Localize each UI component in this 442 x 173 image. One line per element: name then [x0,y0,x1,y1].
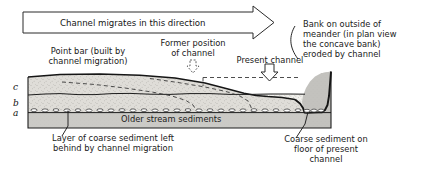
point-bar-label-line1: Point bar (built by [32,46,144,56]
former-channel-down-arrow [187,60,199,73]
coarse-layer-label-line2: behind by channel migration [38,143,188,153]
geologic-cross-section-figure: Channel migrates in this direction Point… [0,0,442,173]
point-bar-label-line2: channel migration) [32,56,144,66]
former-position-label-line2: of channel [146,48,240,58]
migration-direction-label: Channel migrates in this direction [60,18,206,28]
present-channel-down-arrow [261,64,278,81]
coarse-floor-label-line3: channel [272,154,380,164]
coarse-layer-label-line1: Layer of coarse sediment left [38,133,188,143]
bank-outside-label-line1: Bank on outside of [303,19,381,29]
channel-floor-gravel [304,109,324,112]
former-position-label-line1: Former position [146,38,240,48]
coarse-floor-label-line2: floor of present [272,144,380,154]
bank-outside-label-line4: eroded by channel [303,49,381,59]
bed-c-point-bar [28,74,305,113]
bank-outside-label-line2: meander (in plan view [303,29,396,39]
bed-letter-a: a [13,108,18,118]
present-channel-label: Present channel [232,55,308,65]
bed-letter-c: c [13,82,18,92]
coarse-floor-label-line1: Coarse sediment on [272,134,380,144]
bank-outside-label-line3: the concave bank) [303,39,380,49]
older-stream-sediments-label: Older stream sediments [121,114,221,124]
bed-letter-b: b [13,98,19,108]
